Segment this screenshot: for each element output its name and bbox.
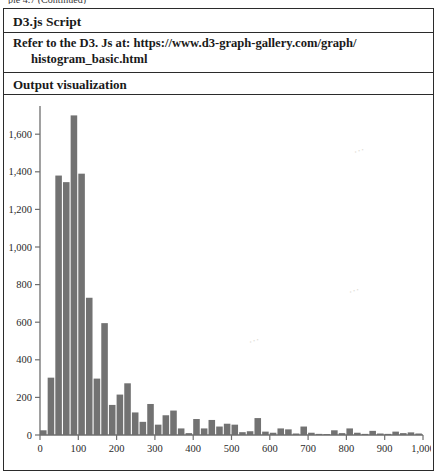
histogram-bar: [285, 429, 292, 435]
histogram-bar: [132, 412, 139, 435]
histogram-bar: [232, 425, 239, 435]
histogram-bar: [216, 427, 223, 435]
histogram-bar: [193, 419, 200, 435]
histogram-bar: [40, 430, 47, 435]
histogram-bar: [124, 383, 131, 435]
output-header-label: Output visualization: [13, 77, 127, 92]
y-tick-label: 600: [16, 317, 32, 328]
x-tick-label: 900: [377, 443, 393, 454]
histogram-bar: [277, 428, 284, 435]
histogram-bar: [94, 379, 101, 435]
table-row-script-header: D3.js Script: [4, 9, 433, 33]
histogram-bar: [201, 428, 208, 435]
histogram-bar: [101, 323, 108, 435]
y-tick-label: 400: [16, 354, 32, 365]
page-root: ple 4.7 (Continued) D3.js Script Refer t…: [0, 0, 438, 475]
histogram-bar: [63, 182, 70, 435]
reference-line-2: histogram_basic.html: [13, 52, 425, 68]
histogram-bar: [254, 418, 261, 435]
histogram-bar: [109, 405, 116, 435]
y-tick-label: 1,200: [8, 204, 32, 215]
y-tick-label: 800: [16, 279, 32, 290]
y-tick-label: 0: [27, 430, 32, 441]
table-row-output-header: Output visualization: [4, 73, 433, 95]
histogram-bar: [170, 411, 177, 435]
histogram-bar: [300, 427, 307, 435]
x-tick-label: 600: [262, 443, 278, 454]
histogram-bar: [224, 424, 231, 435]
histogram-bar: [147, 404, 154, 435]
cropped-caption-text: ple 4.7 (Continued): [8, 0, 428, 4]
x-tick-label: 1,000: [411, 443, 431, 454]
x-tick-label: 400: [185, 443, 201, 454]
histogram-bar: [55, 176, 62, 435]
histogram-bar: [78, 174, 85, 435]
histogram-bar: [346, 428, 353, 435]
y-tick-label: 1,400: [8, 166, 32, 177]
paper-smudge: ···: [347, 283, 361, 298]
y-tick-label: 1,000: [8, 242, 32, 253]
table-row-reference: Refer to the D3. Js at: https://www.d3-g…: [4, 33, 433, 73]
histogram-bar: [331, 430, 338, 435]
histogram-bar: [140, 422, 147, 435]
x-tick-label: 0: [37, 443, 42, 454]
y-tick-label: 1,600: [8, 129, 32, 140]
paper-smudge: ···: [352, 143, 366, 158]
histogram-bar: [178, 428, 185, 435]
histogram-bar: [209, 420, 216, 435]
y-tick-label: 200: [16, 392, 32, 403]
histogram-bar: [163, 415, 170, 435]
histogram-bar: [71, 115, 78, 435]
x-tick-label: 700: [300, 443, 316, 454]
x-tick-label: 500: [224, 443, 240, 454]
histogram-chart: ·········02004006008001,0001,2001,4001,6…: [0, 96, 431, 471]
x-tick-label: 200: [109, 443, 125, 454]
histogram-bar: [117, 395, 124, 435]
histogram-bar: [86, 298, 93, 435]
script-header-label: D3.js Script: [13, 14, 81, 29]
x-tick-label: 800: [339, 443, 355, 454]
x-tick-label: 300: [147, 443, 163, 454]
x-tick-label: 100: [70, 443, 86, 454]
histogram-svg: ·········02004006008001,0001,2001,4001,6…: [0, 96, 431, 471]
reference-line-1: Refer to the D3. Js at: https://www.d3-g…: [13, 36, 357, 50]
paper-smudge: ···: [247, 333, 261, 348]
histogram-bar: [155, 425, 162, 435]
histogram-bar: [48, 378, 55, 435]
